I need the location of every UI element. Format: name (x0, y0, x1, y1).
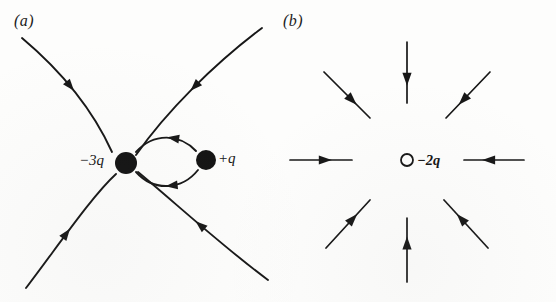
panel-a: (a) −3q +q (0, 0, 278, 302)
ray-north-arrowhead (402, 73, 411, 86)
ray-southwest (326, 200, 370, 248)
charge-label-neg-3q: −3q (79, 152, 104, 169)
fieldline-lower-left-arrowhead (59, 229, 70, 241)
fieldline-loop-upper (136, 138, 196, 152)
fieldline-loop-lower-arrowhead (166, 181, 178, 190)
panel-a-field-diagram (0, 0, 278, 302)
charge-pos-q (196, 150, 216, 170)
ray-west-arrowhead (319, 155, 332, 164)
fieldline-lower-left (26, 174, 116, 288)
figure-root: (a) −3q +q (b) −2q (0, 0, 556, 302)
ray-northwest (324, 72, 370, 118)
ray-southeast (444, 200, 488, 248)
charge-neg-2q (401, 154, 413, 166)
ray-northeast (446, 72, 490, 118)
fieldline-upper-right (136, 28, 262, 155)
panel-b: (b) −2q (278, 0, 556, 302)
charge-neg-3q (115, 152, 137, 174)
fieldline-upper-left (22, 38, 112, 152)
charge-label-neg-2q: −2q (417, 152, 440, 169)
charge-label-pos-q: +q (218, 150, 236, 167)
fieldline-loop-upper-arrowhead (167, 135, 180, 144)
ray-east-arrowhead (482, 155, 495, 164)
ray-south-arrowhead (402, 236, 411, 249)
panel-b-field-diagram (278, 0, 556, 302)
